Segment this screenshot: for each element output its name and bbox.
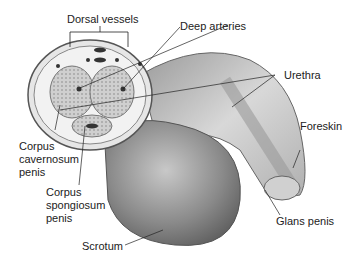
glans-shape: [264, 176, 300, 200]
label-corpus-cavernosum: Corpuscavernosumpenis: [19, 140, 79, 179]
label-glans-penis: Glans penis: [276, 215, 334, 228]
anatomy-diagram: Dorsal vessels Deep arteries Urethra For…: [0, 0, 355, 264]
label-foreskin: Foreskin: [300, 120, 342, 133]
label-scrotum: Scrotum: [82, 240, 123, 253]
label-deep-arteries: Deep arteries: [180, 20, 246, 33]
label-dorsal-vessels: Dorsal vessels: [67, 13, 139, 26]
label-corpus-spongiosum: Corpusspongiosumpenis: [46, 186, 105, 225]
label-urethra: Urethra: [284, 69, 321, 82]
